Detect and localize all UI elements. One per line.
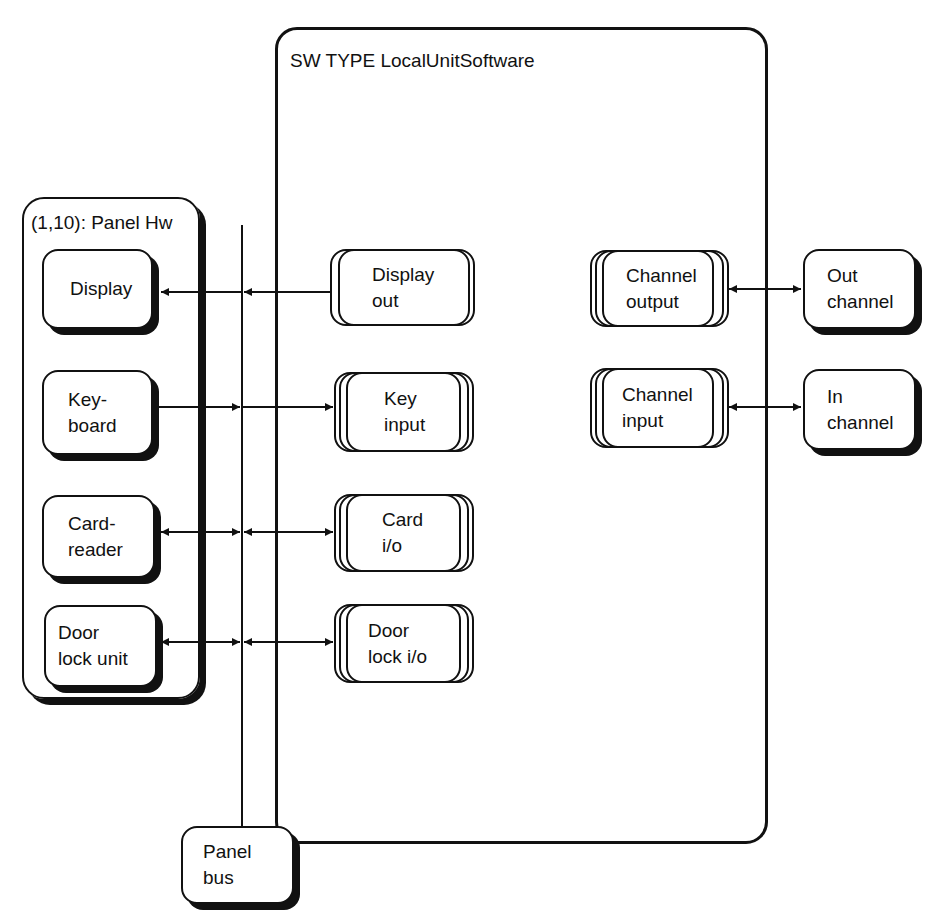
keyboard-unit-line-2: board	[68, 413, 151, 439]
panel-bus-box[interactable]: Panel bus	[181, 826, 294, 904]
keyboard-unit-line-1: Key-	[68, 387, 151, 413]
key-input-process[interactable]: Key input	[334, 372, 474, 452]
out-channel-box[interactable]: Out channel	[803, 249, 916, 329]
card-io-line-2: i/o	[382, 533, 459, 559]
display-out-line-1: Display	[372, 262, 468, 288]
door-lock-unit-box[interactable]: Door lock unit	[44, 605, 157, 687]
channel-output-line-2: output	[626, 289, 712, 315]
out-channel-line-1: Out	[827, 263, 914, 289]
key-input-line-2: input	[384, 412, 459, 438]
sw-type-label: SW TYPE LocalUnitSoftware	[290, 50, 535, 72]
door-lock-unit-line-2: lock unit	[58, 646, 155, 672]
card-io-line-1: Card	[382, 507, 459, 533]
panel-bus-line-1: Panel	[203, 839, 292, 865]
in-channel-line-1: In	[827, 384, 914, 410]
display-out-process[interactable]: Display out	[330, 249, 475, 326]
channel-input-line-2: input	[622, 408, 712, 434]
channel-output-line-1: Channel	[626, 263, 712, 289]
channel-input-line-1: Channel	[622, 382, 712, 408]
card-io-process[interactable]: Card i/o	[334, 494, 474, 572]
card-reader-unit-line-1: Card-	[68, 511, 153, 537]
display-unit-box[interactable]: Display	[42, 249, 153, 329]
display-out-line-2: out	[372, 288, 468, 314]
display-unit-line-1: Display	[70, 276, 151, 302]
in-channel-line-2: channel	[827, 410, 914, 436]
channel-output-process[interactable]: Channel output	[590, 250, 729, 327]
in-channel-box[interactable]: In channel	[803, 369, 916, 450]
channel-input-process[interactable]: Channel input	[590, 368, 729, 448]
card-reader-unit-box[interactable]: Card- reader	[42, 495, 155, 578]
door-lock-io-line-1: Door	[368, 618, 459, 644]
key-input-line-1: Key	[384, 386, 459, 412]
panel-bus-line-2: bus	[203, 865, 292, 891]
door-lock-io-line-2: lock i/o	[368, 644, 459, 670]
door-lock-io-process[interactable]: Door lock i/o	[334, 604, 474, 683]
door-lock-unit-line-1: Door	[58, 620, 155, 646]
keyboard-unit-box[interactable]: Key- board	[42, 370, 153, 455]
card-reader-unit-line-2: reader	[68, 537, 153, 563]
out-channel-line-2: channel	[827, 289, 914, 315]
panel-hw-label: (1,10): Panel Hw	[31, 212, 173, 234]
